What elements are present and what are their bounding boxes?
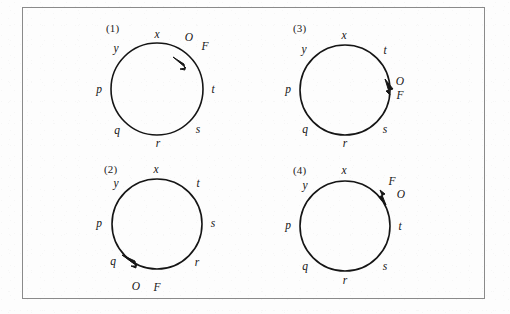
panel-4-label-s: s — [383, 261, 387, 273]
panel-4-label-p: p — [285, 220, 291, 232]
panel-4-label-x: x — [341, 165, 346, 177]
panel-4-circle — [300, 181, 390, 271]
panel-4-label-F: F — [388, 176, 395, 188]
panel-4-arrowhead-icon — [379, 190, 386, 205]
panel-4-label-r: r — [343, 275, 347, 287]
panel-4-label-t: t — [398, 221, 401, 233]
panel-4-circle-graphic — [0, 0, 510, 314]
panel-4-label-y: y — [302, 180, 307, 192]
panel-4-label-q: q — [302, 261, 308, 273]
panel-4-label-O: O — [397, 189, 405, 201]
figure-page: (1) x y p q r s t O F (2) x y p q — [0, 0, 510, 314]
